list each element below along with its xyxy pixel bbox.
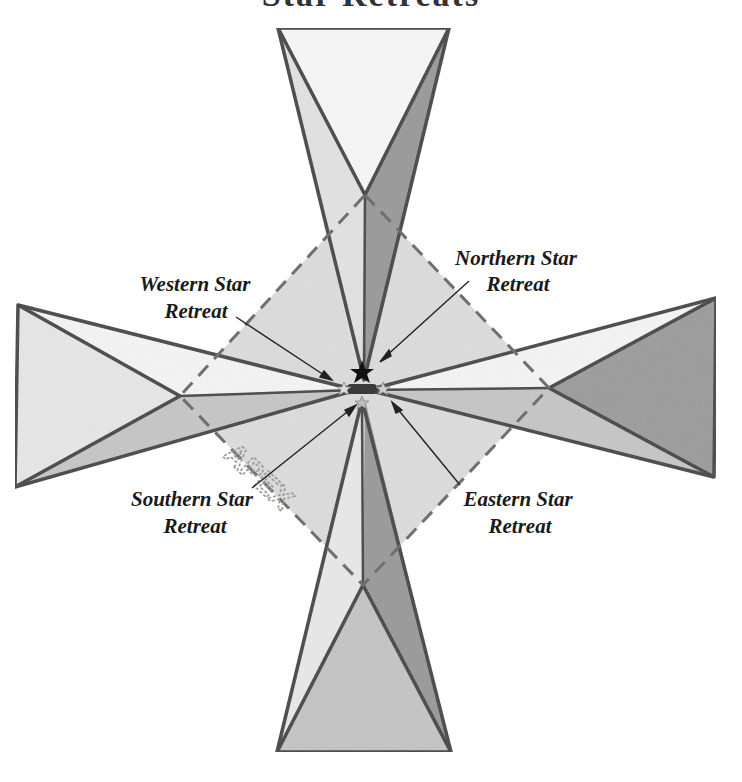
svg-text:Northern Star: Northern Star xyxy=(454,246,578,270)
svg-text:Southern Star: Southern Star xyxy=(131,487,254,511)
svg-text:Retreat: Retreat xyxy=(486,272,551,296)
star-retreats-diagram: APEX Northern Star Retreat Western Star … xyxy=(0,0,742,782)
label-southern-star-retreat: Southern Star Retreat xyxy=(131,487,254,538)
label-northern-star-retreat: Northern Star Retreat xyxy=(454,246,578,296)
label-eastern-star-retreat: Eastern Star Retreat xyxy=(462,487,573,538)
svg-text:Retreat: Retreat xyxy=(163,514,228,538)
label-western-star-retreat: Western Star Retreat xyxy=(139,272,251,323)
svg-text:Eastern Star: Eastern Star xyxy=(462,487,573,511)
svg-text:Retreat: Retreat xyxy=(164,299,229,323)
svg-text:Western Star: Western Star xyxy=(139,272,251,296)
svg-text:Retreat: Retreat xyxy=(488,514,553,538)
